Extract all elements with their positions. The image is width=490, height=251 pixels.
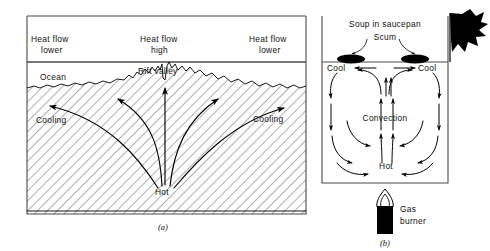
heat-flow-left-label-line1: Heat flow — [31, 34, 69, 44]
saucepan-title-label: Soup in saucepan — [349, 19, 421, 29]
rift-valley-label: Rift valley — [138, 66, 178, 76]
heat-flow-left-label-line2: lower — [41, 45, 63, 55]
heat-flow-right-label-line2: lower — [259, 45, 281, 55]
heat-flow-center-label-line2: high — [151, 45, 168, 55]
heat-flow-right-label-line1: Heat flow — [249, 34, 287, 44]
figure-root: Heat flow lower Heat flow high Heat flow… — [0, 0, 490, 251]
scum-label: Scum — [374, 32, 397, 42]
left-bottom-return — [337, 163, 368, 175]
right-descend-bottom — [418, 136, 438, 163]
panel-a-caption: (a) — [158, 222, 168, 232]
scum-leader-left — [352, 39, 367, 54]
ocean-label: Ocean — [40, 72, 66, 82]
gas-burner-label-line2: burner — [400, 216, 426, 226]
cool-left-label: Cool — [327, 63, 345, 73]
left-inner-loop-top — [358, 70, 381, 94]
steam-plume — [450, 9, 488, 52]
gas-burner-label-line1: Gas — [400, 204, 416, 214]
convection-label: Convection — [363, 113, 408, 123]
heat-flow-center-label-line1: Heat flow — [140, 34, 178, 44]
left-inner-return — [347, 121, 370, 146]
left-descend-bottom — [332, 136, 352, 163]
right-inner-loop-top — [389, 70, 412, 94]
hot-label-panel-b: Hot — [379, 161, 393, 171]
right-descend-top — [433, 73, 439, 98]
cool-right-label: Cool — [418, 63, 436, 73]
gas-burner-body — [377, 206, 393, 234]
saucepan-panel: Soup in saucepan Scum Cool Cool Convecti… — [322, 9, 488, 248]
panel-b-caption: (b) — [380, 238, 390, 248]
hot-label-panel-a: Hot — [155, 187, 169, 197]
left-descend-top — [331, 73, 337, 98]
cooling-right-label: Cooling — [253, 114, 284, 124]
scum-leader-right — [399, 39, 415, 54]
figure-canvas: Heat flow lower Heat flow high Heat flow… — [0, 0, 490, 251]
right-bottom-return — [402, 163, 433, 175]
left-riser-low — [381, 134, 382, 163]
cooling-left-label: Cooling — [36, 115, 67, 125]
right-inner-return — [400, 121, 423, 146]
seafloor-spreading-panel: Heat flow lower Heat flow high Heat flow… — [27, 16, 306, 232]
right-riser-low — [392, 134, 393, 163]
